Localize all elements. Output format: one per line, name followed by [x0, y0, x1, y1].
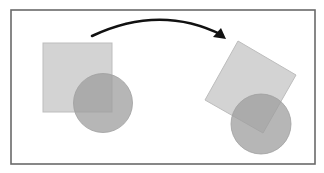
diagram-canvas — [0, 0, 324, 173]
circle-after — [231, 94, 291, 154]
rotation-diagram — [0, 0, 324, 173]
circle-before — [74, 74, 133, 133]
